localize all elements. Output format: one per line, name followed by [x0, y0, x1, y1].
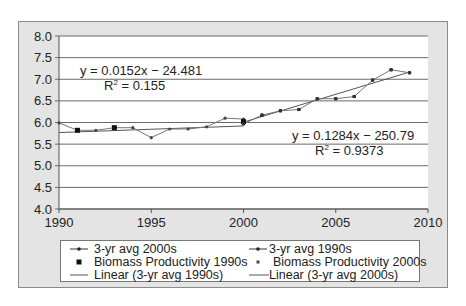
equation-1990s: y = 0.0152x − 24.481 R2 = 0.155: [80, 63, 202, 93]
line-marker-icon: [247, 242, 269, 256]
marker-3yr-1990s: [168, 127, 171, 130]
legend-item-biomass-2000s: Biomass Productivity 2000s: [247, 255, 427, 269]
legend-item-linear-1990s: Linear (3-yr avg 1990s): [68, 268, 223, 282]
y-tick-label: 5.0: [34, 158, 52, 173]
equation-2000s: y = 0.1284x − 250.79 R2 = 0.9373: [292, 128, 414, 158]
marker-biomass-2000s: [371, 79, 374, 82]
marker-3yr-1990s: [150, 136, 153, 139]
marker-biomass-2000s: [242, 122, 245, 125]
legend-item-3yr-1990s: 3-yr avg 1990s: [247, 242, 352, 256]
marker-3yr-1990s: [131, 126, 134, 129]
marker-biomass-2000s: [353, 95, 356, 98]
y-tick-label: 8.0: [34, 29, 52, 44]
trendline-icon: [247, 268, 269, 282]
equation-2000s-line: y = 0.1284x − 250.79: [292, 128, 414, 143]
y-tick-label: 5.5: [34, 137, 52, 152]
marker-biomass-2000s: [297, 108, 300, 111]
y-tick-label: 6.5: [34, 93, 52, 108]
legend-item-3yr-2000s: 3-yr avg 2000s: [68, 242, 177, 256]
line-marker-icon: [68, 242, 90, 256]
square-marker-icon: [68, 255, 90, 269]
chart-legend: 3-yr avg 2000s 3-yr avg 1990s Biomass Pr…: [60, 240, 420, 282]
y-tick-label: 7.0: [34, 72, 52, 87]
marker-biomass-1990s: [112, 125, 117, 130]
marker-biomass-2000s: [390, 68, 393, 71]
trendline-icon: [68, 268, 90, 282]
marker-3yr-1990s: [205, 125, 208, 128]
marker-3yr-1990s: [223, 117, 226, 120]
marker-biomass-2000s: [279, 109, 282, 112]
x-tick-label: 1995: [137, 215, 166, 230]
legend-item-linear-2000s: Linear (3-yr avg 2000s): [247, 268, 398, 282]
x-tick-label: 1990: [45, 215, 74, 230]
marker-biomass-2000s: [408, 71, 411, 74]
x-tick-label: 2005: [321, 215, 350, 230]
y-tick-label: 4.5: [34, 180, 52, 195]
y-tick-label: 7.5: [34, 50, 52, 65]
r2-1990s: R2 = 0.155: [80, 78, 202, 93]
legend-item-biomass-1990s: Biomass Productivity 1990s: [68, 255, 248, 269]
r2-2000s: R2 = 0.9373: [292, 143, 414, 158]
marker-3yr-1990s: [57, 121, 60, 124]
marker-3yr-1990s: [94, 129, 97, 132]
small-square-marker-icon: [247, 255, 269, 269]
y-tick-label: 6.0: [34, 115, 52, 130]
marker-biomass-2000s: [260, 114, 263, 117]
marker-biomass-1990s: [75, 128, 80, 133]
equation-1990s-line: y = 0.0152x − 24.481: [80, 63, 202, 78]
marker-3yr-1990s: [187, 127, 190, 130]
x-tick-label: 2010: [414, 215, 443, 230]
marker-biomass-2000s: [334, 97, 337, 100]
marker-biomass-2000s: [316, 97, 319, 100]
x-tick-label: 2000: [229, 215, 258, 230]
